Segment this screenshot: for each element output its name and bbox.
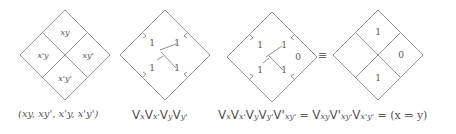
- subscript: y': [181, 112, 188, 121]
- value-top: 1: [375, 27, 381, 37]
- diamond-1: [20, 10, 110, 100]
- equals-sign: =: [377, 109, 386, 122]
- void-symbol: V: [312, 108, 320, 122]
- void-symbol: V: [231, 108, 239, 122]
- value-bottom: 1: [375, 73, 381, 83]
- diamond-4: [333, 10, 423, 100]
- diamond-3-cut-bl: [250, 74, 254, 80]
- cell-x'y': x'y': [58, 74, 71, 83]
- diamond-3-cut-tl: [250, 35, 254, 41]
- diamond-2: [120, 10, 210, 100]
- void-symbol: V: [160, 108, 168, 122]
- void-symbol: V: [352, 108, 360, 122]
- value-top-left: 1: [149, 38, 155, 48]
- diamond-2-cut-tr: [184, 33, 188, 39]
- diamond-3-cross-b: [263, 58, 269, 63]
- equals-sign: =: [300, 109, 309, 122]
- value-top-right: 1: [174, 38, 180, 48]
- value-top-left: 1: [257, 40, 263, 50]
- diamond-3-outline: [227, 12, 317, 102]
- cell-x'y: x'y: [37, 51, 49, 60]
- void-symbol: V: [246, 108, 254, 122]
- subscript: xy': [285, 112, 296, 121]
- diamond-2-cut-tl: [143, 33, 147, 39]
- subscript: xy: [321, 112, 330, 121]
- void-prime-symbol: V': [330, 108, 342, 122]
- void-prime-symbol: V': [273, 108, 285, 122]
- equivalence-symbol: ≡: [318, 49, 327, 62]
- diamond-3-cut-tr: [291, 35, 295, 41]
- value-bottom-right: 1: [174, 63, 180, 73]
- value-right: 0: [295, 52, 301, 62]
- diamond-2-outline: [120, 10, 210, 100]
- value-right: 0: [398, 50, 404, 60]
- void-symbol: V: [172, 108, 180, 122]
- diamond-2-cross-b: [157, 56, 163, 60]
- caption-1: (xy, xy', x'y, x'y'): [18, 108, 98, 119]
- value-bottom-left: 1: [257, 65, 263, 75]
- subscript: xy': [341, 112, 352, 121]
- implication-result: (x ⇒ y): [390, 109, 427, 122]
- value-top-right: 1: [281, 40, 287, 50]
- diamond-2-cut-bl: [143, 72, 147, 78]
- diamond-2-cut-br: [184, 72, 188, 78]
- caption-3: VxVx'VyVy'V'xy' = VxyV'xy'Vx'y' = (x ⇒ y…: [218, 108, 427, 122]
- diamond-3: [227, 12, 317, 102]
- subscript: x'y': [361, 112, 374, 121]
- cell-xy: xy: [60, 28, 70, 37]
- value-bottom-left: 1: [149, 63, 155, 73]
- diamond-3-cut-br: [291, 74, 295, 80]
- void-symbol: V: [258, 108, 266, 122]
- subscript: x': [239, 112, 246, 121]
- void-symbol: V: [132, 108, 140, 122]
- void-symbol: V: [218, 108, 226, 122]
- subscript: x': [153, 112, 160, 121]
- value-bottom-right: 1: [281, 65, 287, 75]
- caption-2: VxVx'VyVy': [132, 108, 187, 122]
- void-symbol: V: [145, 108, 153, 122]
- cell-xy': xy': [82, 51, 93, 60]
